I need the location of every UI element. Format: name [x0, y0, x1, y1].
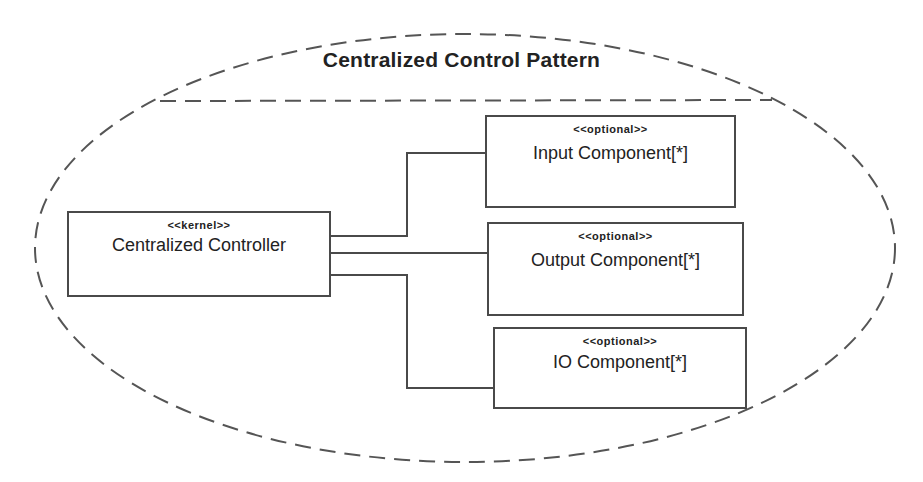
component-name: Output Component[*] — [489, 250, 742, 271]
component-output[interactable]: <<optional>> Output Component[*] — [487, 222, 744, 316]
connector-controller-input — [330, 153, 485, 236]
component-name: Centralized Controller — [69, 235, 329, 256]
stereotype-label: <<kernel>> — [69, 219, 329, 231]
stereotype-label: <<optional>> — [487, 123, 734, 135]
component-centralized-controller[interactable]: <<kernel>> Centralized Controller — [67, 211, 331, 297]
component-name: IO Component[*] — [495, 352, 745, 373]
component-name: Input Component[*] — [487, 143, 734, 164]
diagram-title: Centralized Control Pattern — [0, 48, 923, 72]
component-input[interactable]: <<optional>> Input Component[*] — [485, 115, 736, 208]
connector-controller-io — [330, 275, 493, 388]
stereotype-label: <<optional>> — [489, 230, 742, 242]
title-divider-line — [160, 100, 772, 101]
component-io[interactable]: <<optional>> IO Component[*] — [493, 327, 747, 409]
stereotype-label: <<optional>> — [495, 335, 745, 347]
